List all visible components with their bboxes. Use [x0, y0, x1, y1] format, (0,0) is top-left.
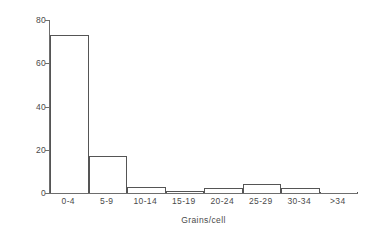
bar: [281, 188, 320, 193]
x-axis-line: [49, 193, 358, 194]
x-axis-tick-label: 30-34: [280, 197, 319, 206]
x-axis-tick-labels: 0-45-910-1415-1920-2425-2930-34>34: [49, 197, 358, 211]
y-axis-tick-label: 80: [24, 16, 46, 25]
plot-area: [49, 20, 358, 194]
bar: [204, 188, 243, 193]
y-axis-tick-label: 60: [24, 59, 46, 68]
y-axis-tick-mark: [45, 63, 50, 64]
x-axis-title: Grains/cell: [49, 215, 358, 225]
x-axis-tick-label: 10-14: [126, 197, 165, 206]
x-axis-tick-label: 15-19: [165, 197, 204, 206]
y-axis-tick-mark: [45, 20, 50, 21]
y-axis-tick-label: 0: [24, 189, 46, 198]
x-axis-tick-label: 0-4: [49, 197, 88, 206]
bar-series: [50, 20, 358, 193]
x-axis-tick-label: 25-29: [242, 197, 281, 206]
x-axis-tick-label: >34: [319, 197, 358, 206]
x-axis-tick-label: 20-24: [203, 197, 242, 206]
y-axis-tick-mark: [45, 193, 50, 194]
y-axis-tick-mark: [45, 150, 50, 151]
histogram-figure: % of total cells 020406080 0-45-910-1415…: [0, 0, 377, 245]
bar: [127, 187, 166, 193]
y-axis-tick-labels: 020406080: [20, 0, 46, 245]
y-axis-tick-mark: [45, 107, 50, 108]
bar: [166, 191, 205, 193]
bar: [243, 184, 282, 193]
bar: [89, 156, 128, 193]
y-axis-tick-label: 40: [24, 103, 46, 112]
y-axis-tick-label: 20: [24, 146, 46, 155]
x-axis-tick-label: 5-9: [88, 197, 127, 206]
bar: [320, 192, 359, 193]
bar: [50, 35, 89, 193]
